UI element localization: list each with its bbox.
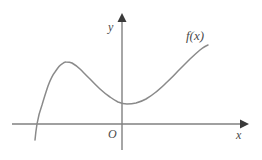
y-axis-arrow-icon <box>118 13 127 22</box>
function-label: f(x) <box>186 28 204 43</box>
origin-label: O <box>108 127 117 141</box>
x-axis-arrow-icon <box>240 120 249 129</box>
y-axis-label: y <box>107 20 114 34</box>
function-graph-figure: y x O f(x) <box>0 0 262 160</box>
x-axis-label: x <box>235 128 242 142</box>
graph-canvas: y x O f(x) <box>0 0 262 160</box>
